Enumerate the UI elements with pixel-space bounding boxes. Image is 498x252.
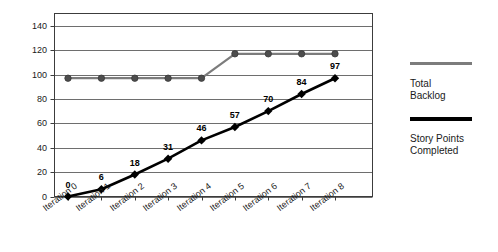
- data-point-label: 0: [53, 181, 83, 190]
- series-marker: [198, 75, 204, 81]
- plot-frame: [55, 14, 373, 197]
- data-point-label: 70: [253, 95, 283, 104]
- y-tick-label: 0: [13, 193, 47, 202]
- burndown-chart: 020406080100120140 Iteration 0Iteration …: [0, 0, 498, 252]
- series-marker: [264, 107, 272, 115]
- series-marker: [65, 75, 71, 81]
- series-marker: [231, 123, 239, 131]
- data-point-label: 46: [187, 124, 217, 133]
- data-point-label: 84: [287, 78, 317, 87]
- y-tick-label: 80: [13, 95, 47, 104]
- data-point-label: 97: [320, 62, 350, 71]
- y-tick-label: 100: [13, 71, 47, 80]
- y-tick-label: 60: [13, 119, 47, 128]
- y-tick-label: 140: [13, 22, 47, 31]
- legend-swatch-total-backlog: [410, 62, 472, 65]
- series-marker: [298, 51, 304, 57]
- series-marker: [265, 51, 271, 57]
- legend-label-story-points-completed: Story Points Completed: [410, 133, 490, 157]
- series-line: [68, 54, 335, 78]
- y-tick-label: 40: [13, 144, 47, 153]
- data-point-label: 18: [120, 159, 150, 168]
- data-point-label: 31: [153, 143, 183, 152]
- series-marker: [232, 51, 238, 57]
- legend-label-total-backlog: Total Backlog: [410, 78, 446, 102]
- series-marker: [132, 75, 138, 81]
- y-tick-label: 20: [13, 168, 47, 177]
- series-marker: [131, 170, 139, 178]
- data-point-label: 6: [86, 173, 116, 182]
- series-marker: [98, 75, 104, 81]
- series-marker: [332, 51, 338, 57]
- data-point-label: 57: [220, 111, 250, 120]
- y-tick-label: 120: [13, 46, 47, 55]
- plot-area: [0, 0, 498, 252]
- legend-swatch-story-points-completed: [410, 117, 472, 121]
- series-marker: [165, 75, 171, 81]
